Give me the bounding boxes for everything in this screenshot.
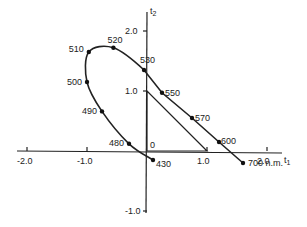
x-tick-label: -2.0: [17, 156, 33, 166]
locus-point-marker: [127, 142, 131, 146]
locus-point-marker: [85, 80, 89, 84]
y-axis-label: t2: [150, 6, 157, 17]
locus-point-marker: [87, 50, 91, 54]
locus-point-label: 480: [109, 138, 124, 148]
locus-point-marker: [160, 91, 164, 95]
x-axis-label-sub: 1: [287, 159, 291, 166]
locus-point-label: 600: [221, 136, 236, 146]
locus-point-marker: [190, 116, 194, 120]
origin-label: 0: [150, 140, 155, 150]
locus-point-label: 430: [156, 159, 171, 169]
locus-point-label: 520: [107, 35, 122, 45]
y-axis-label-sub: 2: [153, 10, 157, 17]
locus-point-marker: [151, 158, 155, 162]
locus-point-label: 500: [67, 77, 82, 87]
locus-point-marker: [241, 161, 245, 165]
chromaticity-diagram: -2.0-1.01.02.02.01.0-1.0 430480490500510…: [0, 0, 307, 227]
locus-point-marker: [100, 109, 104, 113]
locus-point-marker: [142, 68, 146, 72]
y-tick-label: -1.0: [125, 206, 141, 216]
locus-points: 430480490500510520530550570600700 n.m.: [67, 35, 283, 169]
locus-point-label: 700 n.m.: [248, 158, 283, 168]
x-axis-label: t1: [284, 155, 291, 166]
y-tick-label: 2.0: [125, 26, 138, 36]
locus-point-label: 550: [165, 88, 180, 98]
locus-point-label: 490: [82, 106, 97, 116]
axes: [17, 12, 282, 213]
locus-point-label: 570: [195, 113, 210, 123]
y-tick-label: 1.0: [125, 86, 138, 96]
locus-point-label: 530: [140, 55, 155, 65]
x-tick-label: 1.0: [197, 156, 210, 166]
x-tick-label: -1.0: [77, 156, 93, 166]
locus-point-marker: [111, 46, 115, 50]
locus-point-label: 510: [69, 44, 84, 54]
